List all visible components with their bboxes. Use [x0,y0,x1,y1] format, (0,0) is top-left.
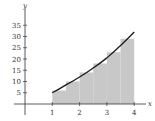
riemann-rectangle [93,64,107,105]
y-tick-label: 30 [12,33,21,41]
riemann-rectangle [52,91,66,105]
y-tick-label: 35 [12,22,21,30]
x-tick-label: 2 [77,109,81,117]
x-tick-label: 1 [50,109,54,117]
riemann-rectangles [52,39,134,104]
y-tick-label: 5 [17,89,21,97]
riemann-rectangle [107,52,121,104]
y-tick-label: 15 [12,67,21,75]
x-tick-label: 4 [132,109,137,117]
riemann-rectangle [66,82,80,105]
y-axis-label: y [22,2,28,10]
riemann-rectangle [80,73,94,105]
y-tick-label: 20 [12,56,21,64]
riemann-sum-chart: 1234 5101520253035 x y [0,0,155,121]
riemann-rectangle [121,39,135,104]
x-axis-label: x [148,100,152,108]
y-tick-label: 10 [12,78,21,86]
y-tick-label: 25 [12,44,21,52]
x-tick-label: 3 [105,109,109,117]
